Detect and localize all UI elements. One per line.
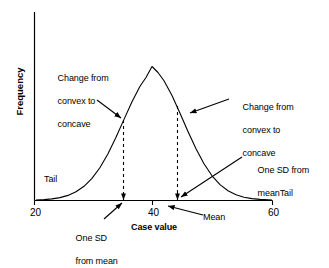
annotation-right-inflection-line1: Change from bbox=[243, 102, 294, 112]
annotation-tail-left: Tail bbox=[44, 174, 57, 186]
x-axis-title: Case value bbox=[131, 222, 177, 234]
annotation-left-inflection-line2: convex to bbox=[58, 96, 96, 106]
mean-leader-arrow bbox=[168, 206, 203, 215]
x-tick-label-40: 40 bbox=[148, 207, 159, 219]
annotation-left-inflection-line1: Change from bbox=[58, 73, 109, 83]
annotation-one-sd-right: One SD from meanTail bbox=[248, 153, 309, 211]
x-tick-label-20: 20 bbox=[30, 207, 41, 219]
annotation-one-sd-right-line2: meanTail bbox=[258, 188, 293, 198]
annotation-mean: Mean bbox=[203, 212, 225, 224]
annotation-one-sd-left-line1: One SD bbox=[76, 233, 107, 243]
y-axis-title: Frequency bbox=[14, 57, 25, 127]
annotation-left-inflection: Change from convex to concave bbox=[48, 61, 109, 142]
annotation-one-sd-right-line1: One SD from bbox=[258, 165, 309, 175]
annotation-one-sd-left-line2: from mean bbox=[76, 256, 118, 266]
annotation-left-inflection-line3: concave bbox=[58, 119, 91, 129]
one-sd-left-leader-arrow bbox=[104, 203, 122, 219]
right-inflection-arrow bbox=[190, 99, 229, 113]
annotation-right-inflection-line2: convex to bbox=[243, 125, 281, 135]
x-tick-label-60: 60 bbox=[268, 207, 279, 219]
annotation-one-sd-left: One SD from mean bbox=[66, 221, 118, 268]
